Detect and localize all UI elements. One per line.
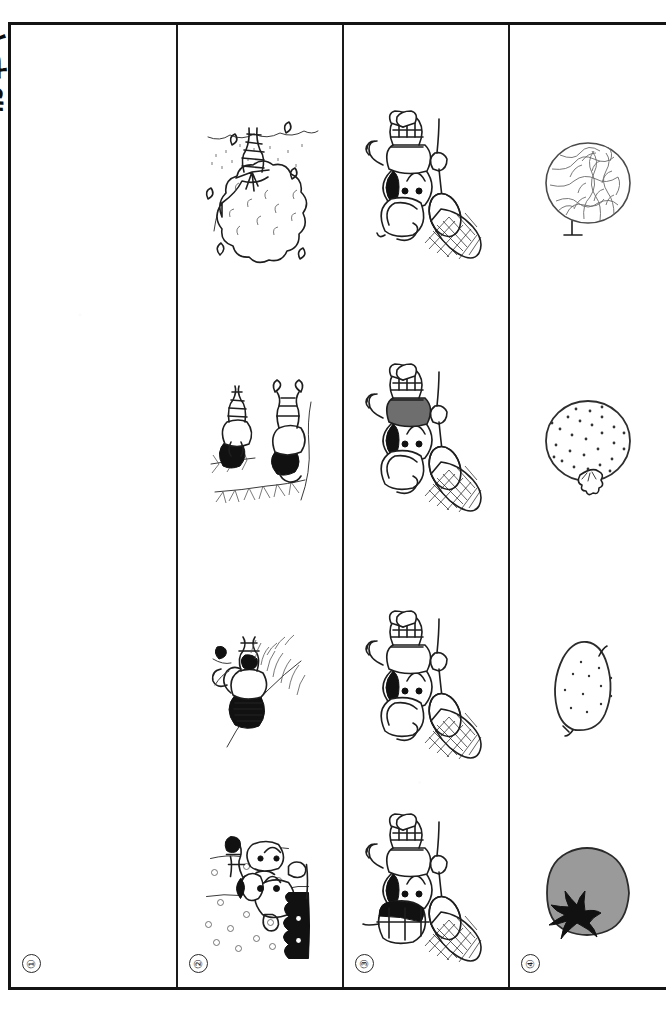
answer-cell-row1[interactable] — [11, 75, 176, 305]
child-with-net-white-shirt-illustration — [367, 115, 485, 265]
fruit-cell-row1 — [510, 75, 666, 305]
melon-illustration — [540, 135, 636, 245]
child-with-net-column: ③ — [342, 25, 507, 987]
cherry-blossom-tree-illustration — [200, 115, 320, 265]
child-net-cell-row1 — [344, 75, 507, 305]
answer-cell-row2[interactable] — [11, 343, 176, 543]
child-with-net-capped-illustration — [367, 818, 485, 968]
season-cell-row2 — [178, 343, 342, 543]
answer-column[interactable]: ① — [11, 25, 176, 987]
column-index-1: ① — [22, 954, 41, 973]
worksheet-grid: ① — [8, 22, 666, 990]
tomato-illustration — [541, 841, 635, 945]
column-index-4: ④ — [521, 954, 540, 973]
snowman-child-illustration — [203, 828, 318, 958]
child-with-net-gray-shirt-illustration — [367, 368, 485, 518]
season-cell-row3 — [178, 595, 342, 785]
child-autumn-leaves-illustration — [205, 625, 315, 755]
worksheet-page: きせつ ① — [0, 0, 666, 1016]
fruit-column: ④ — [508, 25, 666, 987]
child-net-cell-row2 — [344, 343, 507, 543]
child-with-net-white-shirt-illustration — [367, 615, 485, 765]
child-net-cell-row3 — [344, 595, 507, 785]
speckled-fruit-illustration — [540, 391, 636, 495]
fruit-cell-row2 — [510, 343, 666, 543]
season-scene-column: ② — [176, 25, 342, 987]
season-cell-row1 — [178, 75, 342, 305]
answer-cell-row3[interactable] — [11, 595, 176, 785]
children-bamboo-illustration — [205, 378, 315, 508]
lemon-illustration — [547, 638, 629, 742]
fruit-cell-row3 — [510, 595, 666, 785]
